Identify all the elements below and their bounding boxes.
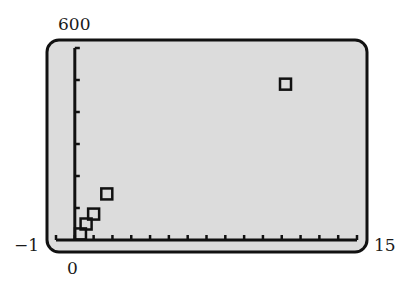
calculator-screen — [0, 0, 405, 296]
